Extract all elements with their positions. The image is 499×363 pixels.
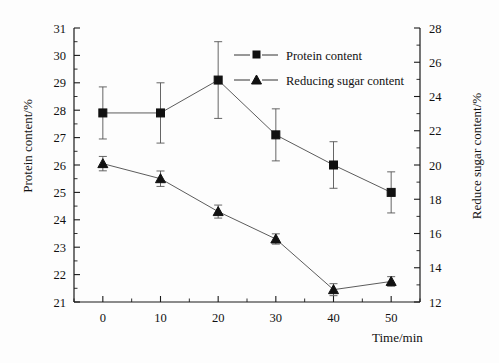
x-axis-tick-label: 20: [212, 311, 225, 325]
y-axis-right-tick-label: 26: [429, 56, 442, 70]
y-axis-left-tick-label: 24: [54, 213, 67, 227]
data-point-protein: [99, 109, 107, 117]
series-line-sugar: [103, 164, 391, 290]
legend-marker-triangle: [252, 75, 262, 84]
y-axis-right-tick-label: 18: [429, 193, 442, 207]
y-axis-right-tick-label: 16: [429, 227, 442, 241]
x-axis-tick-label: 0: [100, 311, 106, 325]
legend-label-1: Reducing sugar content: [286, 74, 405, 88]
y-axis-left-tick-label: 26: [54, 159, 67, 173]
chart-plot-area: 2122232425262728293031121416182022242628…: [0, 0, 499, 363]
data-point-protein: [214, 76, 222, 84]
x-axis-tick-label: 10: [154, 311, 167, 325]
data-point-sugar: [271, 234, 281, 243]
legend-marker-square: [253, 51, 260, 58]
y-axis-right-tick-label: 22: [429, 124, 442, 138]
y-axis-right-title: Reduce sugar content/%: [469, 71, 485, 241]
data-point-protein: [157, 109, 165, 117]
data-point-protein: [387, 188, 395, 196]
data-point-sugar: [98, 159, 108, 168]
data-point-sugar: [213, 207, 223, 216]
y-axis-left-tick-label: 21: [54, 296, 67, 310]
chart-figure: 2122232425262728293031121416182022242628…: [0, 0, 499, 363]
y-axis-left-tick-label: 22: [54, 268, 67, 282]
data-point-protein: [330, 161, 338, 169]
x-axis-tick-label: 50: [385, 311, 398, 325]
y-axis-left-tick-label: 27: [54, 131, 67, 145]
x-axis-tick-label: 30: [270, 311, 283, 325]
y-axis-left-tick-label: 31: [54, 22, 67, 36]
y-axis-left-tick-label: 29: [54, 76, 67, 90]
x-axis-title: Time/min: [372, 330, 423, 346]
y-axis-right-tick-label: 28: [429, 22, 442, 36]
y-axis-left-tick-label: 23: [54, 241, 67, 255]
y-axis-left-tick-label: 28: [54, 104, 67, 118]
data-point-sugar: [386, 276, 396, 285]
y-axis-right-tick-label: 24: [429, 90, 442, 104]
y-axis-right-tick-label: 14: [429, 261, 442, 275]
series-line-protein: [103, 80, 391, 192]
legend-label-0: Protein content: [286, 49, 363, 63]
data-point-protein: [272, 131, 280, 139]
y-axis-left-title: Protein content/%: [20, 71, 36, 221]
y-axis-left-tick-label: 25: [54, 186, 67, 200]
y-axis-right-tick-label: 12: [429, 296, 442, 310]
y-axis-left-tick-label: 30: [54, 49, 67, 63]
y-axis-right-tick-label: 20: [429, 159, 442, 173]
x-axis-tick-label: 40: [327, 311, 340, 325]
